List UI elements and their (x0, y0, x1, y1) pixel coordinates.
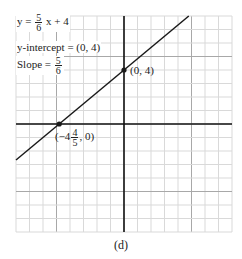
coordinate-plane (0, 0, 242, 240)
y-intercept-label: y-intercept = (0, 4) (16, 41, 101, 53)
intercept-point (121, 67, 126, 72)
line-series (16, 16, 189, 160)
point-y-intercept-label: (0, 4) (129, 64, 155, 76)
equation-line (16, 16, 189, 160)
point-x-intercept-label: (−445, 0) (54, 128, 95, 147)
slope-label: Slope = 56 (16, 56, 64, 75)
intercept-point (57, 121, 62, 126)
equation-label: y = 56 x + 4 (16, 13, 70, 32)
figure-caption: (d) (0, 238, 242, 253)
